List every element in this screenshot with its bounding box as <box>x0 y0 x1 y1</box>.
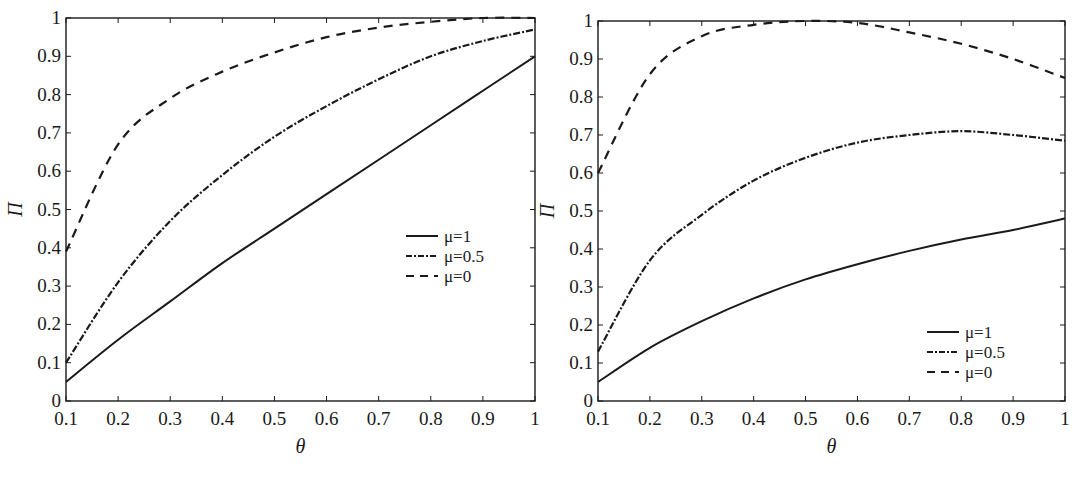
x-tick-label: 0.4 <box>742 408 766 429</box>
y-tick-label: 0.4 <box>569 238 593 259</box>
x-tick-label: 0.3 <box>690 408 714 429</box>
series-line <box>66 18 535 252</box>
y-axis-label: Π <box>4 201 26 218</box>
y-tick-label: 0 <box>52 390 62 411</box>
series-line <box>598 21 1065 173</box>
y-tick-label: 0.5 <box>569 200 593 221</box>
y-tick-label: 0 <box>584 390 594 411</box>
y-tick-label: 0.7 <box>569 124 593 145</box>
series-line <box>66 56 535 382</box>
legend-label: μ=0 <box>965 363 992 382</box>
y-tick-label: 0.2 <box>37 313 61 334</box>
x-tick-label: 0.1 <box>54 408 78 429</box>
y-tick-label: 0.9 <box>37 45 61 66</box>
legend-label: μ=0.5 <box>965 343 1005 362</box>
figure: 0.10.20.30.40.50.60.70.80.9100.10.20.30.… <box>0 0 1073 481</box>
series-line <box>66 29 535 362</box>
x-tick-label: 0.7 <box>367 408 391 429</box>
x-tick-label: 0.6 <box>315 408 339 429</box>
y-tick-label: 0.8 <box>569 86 593 107</box>
x-tick-label: 0.1 <box>586 408 610 429</box>
x-tick-label: 0.5 <box>263 408 287 429</box>
x-tick-label: 0.8 <box>949 408 973 429</box>
x-tick-label: 0.8 <box>419 408 443 429</box>
y-tick-label: 0.8 <box>37 84 61 105</box>
left-plot: 0.10.20.30.40.50.60.70.80.9100.10.20.30.… <box>4 7 540 457</box>
right-plot: 0.10.20.30.40.50.60.70.80.9100.10.20.30.… <box>536 10 1070 457</box>
y-tick-label: 0.6 <box>569 162 593 183</box>
x-axis-label: θ <box>827 435 837 457</box>
x-tick-label: 0.9 <box>471 408 495 429</box>
x-axis-label: θ <box>296 435 306 457</box>
legend-label: μ=0 <box>444 267 471 286</box>
series-line <box>598 131 1065 351</box>
x-tick-label: 0.4 <box>210 408 234 429</box>
y-tick-label: 1 <box>584 10 594 31</box>
y-tick-label: 0.3 <box>37 275 61 296</box>
x-tick-label: 0.2 <box>638 408 662 429</box>
x-tick-label: 1 <box>1060 408 1070 429</box>
legend-label: μ=1 <box>965 323 992 342</box>
x-tick-label: 0.5 <box>794 408 818 429</box>
y-tick-label: 0.2 <box>569 314 593 335</box>
legend-label: μ=0.5 <box>444 247 484 266</box>
y-tick-label: 0.1 <box>569 352 593 373</box>
x-tick-label: 0.7 <box>897 408 921 429</box>
x-tick-label: 1 <box>530 408 540 429</box>
y-tick-label: 0.9 <box>569 48 593 69</box>
x-tick-label: 0.6 <box>846 408 870 429</box>
x-tick-label: 0.9 <box>1001 408 1025 429</box>
y-tick-label: 0.1 <box>37 352 61 373</box>
y-tick-label: 0.6 <box>37 160 61 181</box>
x-tick-label: 0.2 <box>106 408 130 429</box>
y-axis-label: Π <box>536 202 558 219</box>
axes-frame <box>66 18 535 401</box>
legend-label: μ=1 <box>444 227 471 246</box>
x-tick-label: 0.3 <box>158 408 182 429</box>
y-tick-label: 0.7 <box>37 122 61 143</box>
y-tick-label: 0.4 <box>37 237 61 258</box>
y-tick-label: 0.3 <box>569 276 593 297</box>
y-tick-label: 0.5 <box>37 199 61 220</box>
y-tick-label: 1 <box>52 7 62 28</box>
